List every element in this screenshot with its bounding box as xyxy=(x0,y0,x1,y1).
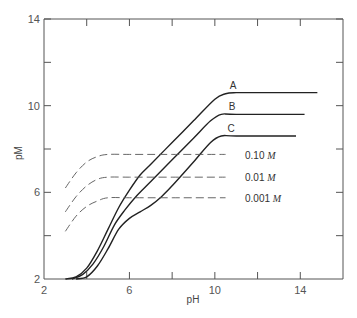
curve-0.01-m xyxy=(65,177,225,212)
ticks xyxy=(44,19,343,279)
y-tick-label: 14 xyxy=(28,13,40,25)
y-tick-label: 2 xyxy=(34,273,40,285)
y-axis-label: pM xyxy=(13,146,24,160)
x-tick-label: 14 xyxy=(294,284,306,296)
x-tick-label: 2 xyxy=(41,284,47,296)
titration-chart: 261014261014 pH pM A B C 0.10 M 0.01 M 0… xyxy=(0,0,357,318)
y-tick-label: 10 xyxy=(28,100,40,112)
curve-0.10-m xyxy=(65,154,225,188)
series-lines xyxy=(65,93,317,279)
curve-label-a: A xyxy=(230,80,237,91)
conc-label-0.01: 0.01 M xyxy=(245,172,276,183)
axes xyxy=(44,19,343,279)
curve-label-c: C xyxy=(227,123,234,134)
curve-label-b: B xyxy=(229,101,236,112)
x-axis-label: pH xyxy=(187,294,200,305)
curve-a xyxy=(65,93,317,279)
y-tick-label: 6 xyxy=(34,186,40,198)
conc-label-0.10: 0.10 M xyxy=(245,150,276,161)
conc-label-0.001: 0.001 M xyxy=(245,193,282,204)
curve-0.001-m xyxy=(65,198,225,232)
x-tick-label: 6 xyxy=(126,284,132,296)
x-tick-label: 10 xyxy=(209,284,221,296)
